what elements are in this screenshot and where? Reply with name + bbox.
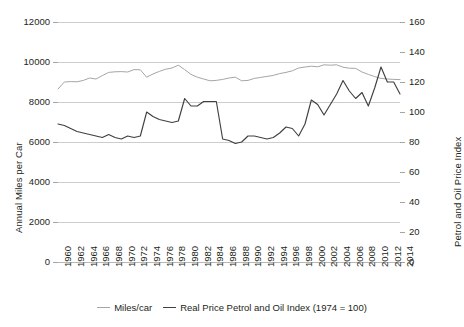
x-axis-tick-label: 1964 — [88, 246, 99, 267]
y-axis-right-tick-label: 100 — [409, 106, 425, 117]
x-axis-tick-label: 1986 — [227, 246, 238, 267]
y-axis-left-tick-label: 12000 — [24, 16, 50, 27]
x-axis-tick-label: 1994 — [278, 246, 289, 267]
x-axis-tick-label: 1966 — [100, 246, 111, 267]
x-axis-tick-label: 1978 — [176, 246, 187, 267]
y-axis-right-tick-label: 80 — [409, 136, 420, 147]
x-axis-tick-label: 1992 — [265, 246, 276, 267]
chart-container: Annual Miles per Car Petrol and Oil Pric… — [0, 0, 464, 327]
x-axis-tick-label: 2000 — [316, 246, 327, 267]
x-axis-tick-label: 1980 — [189, 246, 200, 267]
x-axis-tick-label: 2008 — [366, 246, 377, 267]
chart-legend: Miles/carReal Price Petrol and Oil Index… — [0, 302, 464, 313]
legend-item: Real Price Petrol and Oil Index (1974 = … — [163, 302, 367, 313]
legend-label: Miles/car — [114, 302, 152, 313]
y-axis-right-tick-label: 40 — [409, 196, 420, 207]
legend-color-swatch — [97, 307, 110, 308]
left-tick-marks — [53, 22, 58, 262]
legend-item: Miles/car — [97, 302, 152, 313]
x-axis-tick-label: 1982 — [202, 246, 213, 267]
y-axis-left-tick-label: 6000 — [29, 136, 50, 147]
right-tick-marks — [400, 22, 405, 262]
plot-area — [0, 0, 464, 327]
y-axis-right-tick-label: 60 — [409, 166, 420, 177]
y-axis-left-tick-label: 4000 — [29, 176, 50, 187]
x-axis-tick-label: 2004 — [341, 246, 352, 267]
x-axis-tick-label: 2002 — [328, 246, 339, 267]
x-axis-tick-label: 1976 — [164, 246, 175, 267]
legend-label: Real Price Petrol and Oil Index (1974 = … — [180, 302, 367, 313]
y-axis-right-tick-label: 20 — [409, 226, 420, 237]
x-axis-tick-label: 1998 — [303, 246, 314, 267]
x-axis-tick-label: 2006 — [354, 246, 365, 267]
gridlines — [58, 22, 400, 262]
x-axis-tick-label: 1988 — [240, 246, 251, 267]
y-axis-left-tick-label: 10000 — [24, 56, 50, 67]
x-axis-tick-label: 1972 — [138, 246, 149, 267]
x-axis-tick-label: 1974 — [151, 246, 162, 267]
series-line — [58, 65, 400, 89]
y-axis-right-tick-label: 160 — [409, 16, 425, 27]
x-axis-tick-label: 1984 — [214, 246, 225, 267]
x-axis-tick-label: 2010 — [379, 246, 390, 267]
x-axis-tick-label: 1968 — [113, 246, 124, 267]
y-axis-left-tick-label: 0 — [45, 256, 50, 267]
y-axis-left-tick-label: 8000 — [29, 96, 50, 107]
legend-color-swatch — [163, 307, 176, 308]
x-axis-tick-label: 2012 — [392, 246, 403, 267]
x-axis-tick-label: 1962 — [75, 246, 86, 267]
y-axis-left-tick-label: 2000 — [29, 216, 50, 227]
x-axis-tick-label: 1960 — [62, 246, 73, 267]
y-axis-right-tick-label: 120 — [409, 76, 425, 87]
x-axis-tick-label: 1970 — [126, 246, 137, 267]
x-axis-tick-label: 1990 — [252, 246, 263, 267]
y-axis-right-tick-label: 140 — [409, 46, 425, 57]
series-lines — [58, 65, 400, 144]
x-axis-tick-label: 2014 — [404, 246, 415, 267]
x-axis-tick-label: 1996 — [290, 246, 301, 267]
